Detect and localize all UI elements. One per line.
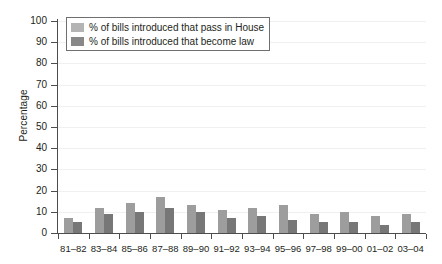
legend-label: % of bills introduced that pass in House (89, 22, 264, 33)
bar (95, 208, 104, 233)
bar (187, 205, 196, 233)
y-axis-tick-label: 20 (7, 186, 47, 196)
bar (196, 212, 205, 233)
bar (156, 197, 165, 233)
x-axis-tick (334, 234, 335, 239)
y-axis-tick (51, 85, 57, 86)
y-axis-tick-label: 70 (7, 80, 47, 90)
legend-swatch-icon (71, 37, 84, 46)
bar (257, 216, 266, 233)
y-axis-tick (51, 169, 57, 170)
y-axis-tick-label: 100 (7, 16, 47, 26)
y-axis-tick (51, 148, 57, 149)
x-axis-tick (150, 234, 151, 239)
bar (248, 208, 257, 233)
bar (218, 210, 227, 233)
y-axis-tick (51, 106, 57, 107)
y-axis-tick-label: 50 (7, 122, 47, 132)
x-axis-tick (58, 234, 59, 239)
legend-item: % of bills introduced that become law (71, 35, 264, 47)
y-axis-tick (51, 127, 57, 128)
x-axis-tick-label: 03–04 (387, 243, 435, 254)
y-axis-tick-label: 10 (7, 207, 47, 217)
bar (126, 203, 135, 233)
y-axis-tick-label: 90 (7, 37, 47, 47)
y-axis-tick (51, 233, 57, 234)
bar (371, 216, 380, 233)
y-axis-tick (51, 42, 57, 43)
bar (411, 222, 420, 233)
bar (380, 225, 389, 233)
bar (279, 205, 288, 233)
y-axis-tick-label: 0 (7, 228, 47, 238)
x-axis-tick (89, 234, 90, 239)
chart-legend: % of bills introduced that pass in House… (66, 17, 270, 51)
x-axis-tick (242, 234, 243, 239)
legend-item: % of bills introduced that pass in House (71, 21, 264, 33)
y-axis-tick-label: 40 (7, 143, 47, 153)
bar (402, 214, 411, 233)
x-axis-tick (119, 234, 120, 239)
y-axis-tick (51, 212, 57, 213)
y-axis-tick (51, 191, 57, 192)
bar (340, 212, 349, 233)
bar-chart: Percentage 0102030405060708090100 81–828… (0, 0, 442, 264)
x-axis-tick (303, 234, 304, 239)
legend-swatch-icon (71, 23, 84, 32)
bars-layer (58, 21, 426, 233)
bar (73, 222, 82, 233)
y-axis-tick (51, 21, 57, 22)
bar (310, 214, 319, 233)
x-axis-tick (365, 234, 366, 239)
x-axis-tick (211, 234, 212, 239)
bar (104, 214, 113, 233)
y-axis-tick-label: 60 (7, 101, 47, 111)
x-axis-tick (273, 234, 274, 239)
y-axis-tick-label: 80 (7, 58, 47, 68)
y-axis-tick (51, 63, 57, 64)
bar (165, 208, 174, 233)
bar (288, 220, 297, 233)
x-axis-tick (395, 234, 396, 239)
bar (64, 218, 73, 233)
x-axis-tick (181, 234, 182, 239)
y-axis-tick-label: 30 (7, 164, 47, 174)
bar (319, 222, 328, 233)
bar (135, 212, 144, 233)
legend-label: % of bills introduced that become law (89, 36, 254, 47)
bar (349, 222, 358, 233)
x-axis-tick (426, 234, 427, 239)
bar (227, 218, 236, 233)
